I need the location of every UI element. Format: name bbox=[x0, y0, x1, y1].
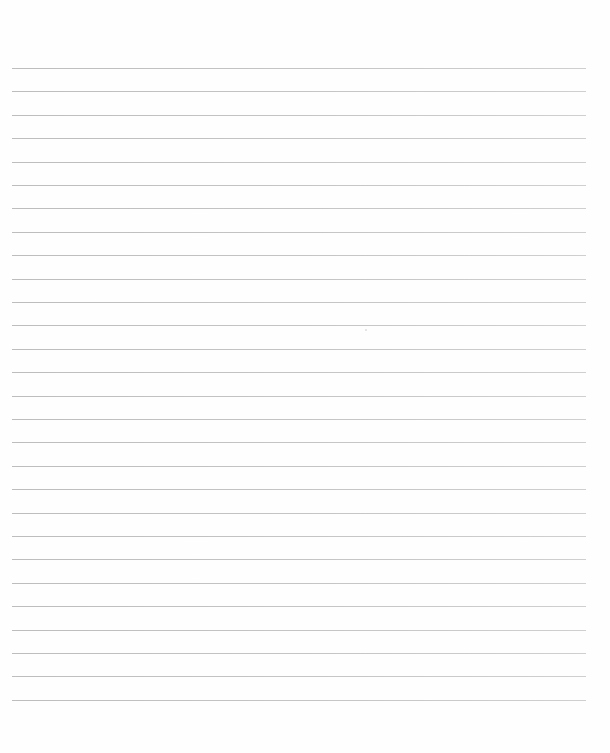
ruled-line bbox=[12, 349, 586, 350]
ruled-line bbox=[12, 325, 586, 326]
ruled-line bbox=[12, 700, 586, 701]
ruled-line bbox=[12, 372, 586, 373]
ruled-line bbox=[12, 68, 586, 69]
ruled-line bbox=[12, 606, 586, 607]
ruled-line bbox=[12, 279, 586, 280]
ruled-line bbox=[12, 185, 586, 186]
ruled-line bbox=[12, 583, 586, 584]
ruled-line bbox=[12, 653, 586, 654]
ruled-line bbox=[12, 232, 586, 233]
ruled-line bbox=[12, 466, 586, 467]
ruled-line bbox=[12, 162, 586, 163]
ruled-line bbox=[12, 255, 586, 256]
ruled-line bbox=[12, 442, 586, 443]
ruled-line bbox=[12, 630, 586, 631]
ruled-line bbox=[12, 676, 586, 677]
ruled-line bbox=[12, 559, 586, 560]
ruled-paper-sheet bbox=[0, 0, 610, 753]
ruled-line bbox=[12, 489, 586, 490]
ruled-line bbox=[12, 536, 586, 537]
ruled-line bbox=[12, 396, 586, 397]
paper-speck bbox=[365, 329, 367, 331]
ruled-line bbox=[12, 138, 586, 139]
ruled-line bbox=[12, 302, 586, 303]
ruled-line bbox=[12, 115, 586, 116]
ruled-line bbox=[12, 91, 586, 92]
ruled-line bbox=[12, 513, 586, 514]
ruled-line bbox=[12, 208, 586, 209]
ruled-line bbox=[12, 419, 586, 420]
